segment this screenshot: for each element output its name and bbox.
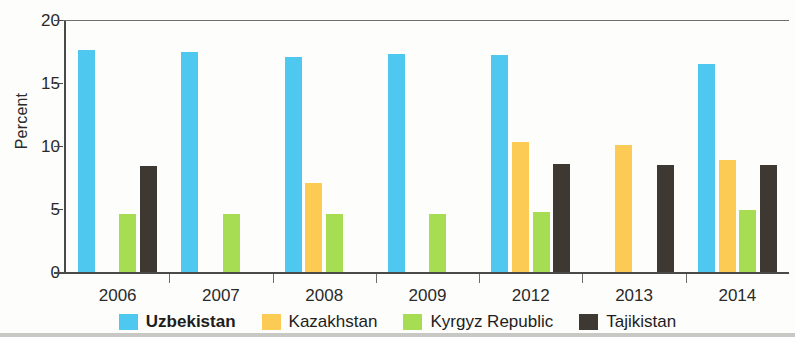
legend-label: Kyrgyz Republic [430, 312, 553, 332]
y-tick-mark [54, 146, 63, 147]
bar [657, 165, 674, 272]
bar [326, 214, 343, 272]
bar [285, 57, 302, 272]
bar [119, 214, 136, 272]
bar [615, 145, 632, 272]
page-bottom-edge [0, 333, 795, 337]
legend-swatch-icon [262, 314, 281, 330]
bar [719, 160, 736, 272]
bar [739, 210, 756, 272]
x-axis-line [54, 272, 789, 274]
bar [181, 52, 198, 273]
x-tick-label: 2007 [202, 286, 240, 306]
bar-chart: Percent 05101520 20062007200820092012201… [0, 0, 795, 337]
bar [760, 165, 777, 272]
legend-item[interactable]: Uzbekistan [119, 312, 236, 332]
x-tick-label: 2012 [512, 286, 550, 306]
legend-label: Tajikistan [606, 312, 676, 332]
legend-swatch-icon [579, 314, 598, 330]
x-tick-label: 2008 [305, 286, 343, 306]
bar [429, 214, 446, 272]
bar [512, 142, 529, 272]
bar [388, 54, 405, 272]
bar-group [376, 20, 479, 272]
x-tick-label: 2013 [615, 286, 653, 306]
bar [553, 164, 570, 272]
y-tick-mark [54, 209, 63, 210]
bar [305, 183, 322, 272]
bar-group [273, 20, 376, 272]
x-axis-group-divider [582, 274, 583, 283]
x-tick-label: 2006 [99, 286, 137, 306]
x-tick-label: 2009 [409, 286, 447, 306]
x-axis-group-divider [686, 274, 687, 283]
legend-item[interactable]: Tajikistan [579, 312, 676, 332]
y-tick-mark [54, 272, 63, 273]
legend-label: Kazakhstan [289, 312, 378, 332]
x-axis-group-divider [376, 274, 377, 283]
bar-group [66, 20, 169, 272]
bar-group [686, 20, 789, 272]
legend-swatch-icon [119, 314, 138, 330]
legend-swatch-icon [403, 314, 422, 330]
legend-label: Uzbekistan [146, 312, 236, 332]
bar-group [169, 20, 272, 272]
y-tick-mark [54, 83, 63, 84]
y-axis-tick-labels: 05101520 [14, 0, 60, 337]
plot-area [66, 20, 789, 272]
y-tick-mark [54, 20, 63, 21]
bar-group [582, 20, 685, 272]
bar [698, 64, 715, 272]
bar [533, 212, 550, 272]
bar-group [479, 20, 582, 272]
bar [223, 214, 240, 272]
x-axis-group-divider [169, 274, 170, 283]
x-axis-group-divider [479, 274, 480, 283]
bar [140, 166, 157, 272]
bar [491, 55, 508, 272]
x-axis-group-divider [273, 274, 274, 283]
x-tick-label: 2014 [718, 286, 756, 306]
bar [78, 50, 95, 272]
legend-item[interactable]: Kazakhstan [262, 312, 378, 332]
legend-item[interactable]: Kyrgyz Republic [403, 312, 553, 332]
